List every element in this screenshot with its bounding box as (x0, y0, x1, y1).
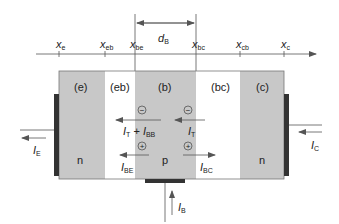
device-regions: (e) (eb) (b) (bc) (c) n p n (59, 71, 284, 179)
label-IE: IE (33, 144, 41, 157)
dimension-label-dB: dB (158, 32, 169, 45)
tick-label-xbe: xbe (129, 38, 143, 51)
tick-label-xeb: xeb (99, 38, 113, 51)
svg-text:−: − (186, 106, 191, 115)
base-current: IB (165, 183, 186, 222)
collector-current: IC (289, 125, 322, 152)
svg-text:+: + (140, 142, 145, 151)
region-label-eb: (eb) (110, 81, 130, 93)
emitter-contact (54, 94, 59, 176)
tick-label-xcb: xcb (235, 38, 249, 51)
tick-label-xc: xc (280, 38, 291, 51)
tick-label-xe: xe (55, 38, 66, 51)
svg-text:+: + (186, 142, 191, 151)
label-IC: IC (311, 139, 319, 152)
doping-label-emitter: n (77, 154, 83, 166)
position-axis: xe xeb xbe xbc xcb xc (36, 38, 316, 57)
region-label-bc: (bc) (211, 81, 230, 93)
region-label-b: (b) (158, 81, 171, 93)
svg-text:−: − (140, 106, 145, 115)
bjt-diagram: dB xe xeb xbe xbc xcb xc (e) (eb) (b) (b… (0, 0, 339, 224)
tick-label-xbc: xbc (191, 38, 205, 51)
doping-label-base: p (162, 154, 168, 166)
base-contact (145, 179, 185, 183)
collector-contact (284, 94, 289, 176)
base-width-dimension: dB (135, 14, 196, 71)
label-IB: IB (178, 201, 186, 214)
region-label-e: (e) (74, 81, 87, 93)
region-label-c: (c) (256, 81, 269, 93)
emitter-current: IE (20, 130, 54, 157)
doping-label-collector: n (259, 154, 265, 166)
